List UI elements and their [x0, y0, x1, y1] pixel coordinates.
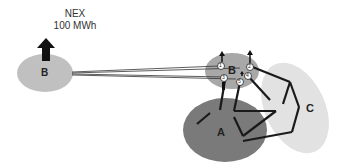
region-b-local-label: B	[228, 64, 236, 76]
node-4-label: 4	[246, 72, 249, 78]
region-a-label: A	[217, 126, 225, 138]
nex-label: NEX 100 MWh	[45, 8, 105, 32]
region-c-label: C	[306, 102, 314, 114]
node-5-label: 5	[238, 78, 241, 84]
node-2-label: 2	[248, 63, 251, 69]
region-c	[248, 52, 342, 164]
region-b-remote-label: B	[41, 67, 48, 78]
region-a	[183, 98, 267, 162]
nex-value: 100 MWh	[45, 20, 105, 32]
node-3-label: 3	[222, 74, 225, 80]
node-1-label: 1	[219, 62, 222, 68]
nex-title: NEX	[45, 8, 105, 20]
